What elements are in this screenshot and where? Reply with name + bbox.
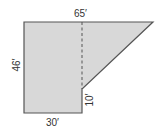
right-segment-dimension-label: 10′: [85, 94, 95, 107]
top-dimension-label: 65′: [74, 9, 87, 19]
left-dimension-label: 46′: [12, 59, 22, 72]
floor-plan-diagram: 65′ 46′ 10′ 30′: [0, 0, 161, 137]
bottom-dimension-label: 30′: [46, 118, 59, 128]
shape-canvas: [0, 0, 161, 137]
